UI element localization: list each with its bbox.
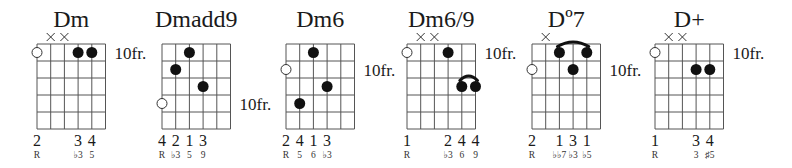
interval-label: 5 xyxy=(89,150,94,160)
finger-number: 1 xyxy=(555,132,563,149)
interval-label: ♭5 xyxy=(582,150,591,160)
finger-dot-icon xyxy=(73,47,84,58)
interval-label: 5 xyxy=(187,150,192,160)
interval-label: ♭♭7 xyxy=(553,150,567,160)
finger-number: 1 xyxy=(583,132,591,149)
finger-number: 4 xyxy=(296,132,304,149)
finger-number: 4 xyxy=(158,132,166,149)
interval-label: ♭3 xyxy=(322,150,331,160)
interval-label: ♯5 xyxy=(705,150,715,160)
finger-number: 2 xyxy=(33,132,41,149)
chord-chart: Dm10fr.234R♭35Dmadd910fr.4213R♭359Dm610f… xyxy=(0,0,792,168)
interval-label: 6 xyxy=(311,150,316,160)
finger-number: 4 xyxy=(88,132,96,149)
finger-number: 1 xyxy=(651,132,659,149)
mute-x-icon xyxy=(678,33,686,41)
root-open-circle-icon xyxy=(402,48,412,58)
finger-dot-icon xyxy=(554,47,565,58)
finger-number: 3 xyxy=(199,132,207,149)
interval-label: 3 xyxy=(694,150,699,160)
chord-diagram-2: Dm610fr.2413R56♭3 xyxy=(281,6,395,160)
mute-x-icon xyxy=(542,33,550,41)
fret-position-label: 10fr. xyxy=(364,61,396,80)
fretboard-grid xyxy=(162,44,231,129)
fret-position-label: 10fr. xyxy=(610,61,642,80)
chord-diagram-0: Dm10fr.234R♭35 xyxy=(32,6,146,160)
root-open-circle-icon xyxy=(527,65,537,75)
finger-number: 4 xyxy=(706,132,714,149)
interval-label: R xyxy=(652,150,659,160)
chord-title: Dm xyxy=(53,6,89,32)
interval-label: R xyxy=(404,150,411,160)
mute-x-icon xyxy=(665,33,673,41)
finger-dot-icon xyxy=(170,64,181,75)
finger-dot-icon xyxy=(470,81,481,92)
finger-dot-icon xyxy=(198,81,209,92)
finger-dot-icon xyxy=(322,81,333,92)
finger-number: 3 xyxy=(74,132,82,149)
finger-dot-icon xyxy=(443,47,454,58)
interval-label: R xyxy=(34,150,41,160)
finger-number: 2 xyxy=(528,132,536,149)
interval-label: 9 xyxy=(473,150,478,160)
chord-title: D+ xyxy=(674,6,705,32)
finger-number: 3 xyxy=(692,132,700,149)
interval-label: R xyxy=(529,150,536,160)
interval-label: 5 xyxy=(297,150,302,160)
finger-number: 2 xyxy=(172,132,180,149)
fret-position-label: 10fr. xyxy=(240,95,272,114)
chord-title: Dm6 xyxy=(296,6,344,32)
finger-number: 4 xyxy=(472,132,480,149)
chord-diagram-3: Dm6/910fr.1244R♭369 xyxy=(402,6,516,160)
finger-dot-icon xyxy=(308,47,319,58)
root-open-circle-icon xyxy=(157,99,167,109)
finger-number: 1 xyxy=(403,132,411,149)
interval-label: R xyxy=(283,150,290,160)
finger-dot-icon xyxy=(691,64,702,75)
root-open-circle-icon xyxy=(281,65,291,75)
mute-x-icon xyxy=(60,33,68,41)
mute-x-icon xyxy=(47,33,55,41)
chord-diagram-4: Dº710fr.2131R♭♭7♭3♭5 xyxy=(527,6,641,160)
fret-position-label: 10fr. xyxy=(733,44,765,63)
chord-title: Dº7 xyxy=(548,6,585,32)
mute-x-icon xyxy=(417,33,425,41)
finger-dot-icon xyxy=(294,98,305,109)
finger-number: 2 xyxy=(282,132,290,149)
finger-dot-icon xyxy=(86,47,97,58)
fret-position-label: 10fr. xyxy=(115,44,147,63)
finger-number: 2 xyxy=(444,132,452,149)
finger-dot-icon xyxy=(704,64,715,75)
finger-dot-icon xyxy=(184,47,195,58)
finger-dot-icon xyxy=(456,81,467,92)
finger-number: 1 xyxy=(185,132,193,149)
chord-title: Dmadd9 xyxy=(155,6,238,32)
interval-label: ♭3 xyxy=(73,150,82,160)
finger-number: 1 xyxy=(309,132,317,149)
fret-position-label: 10fr. xyxy=(485,44,517,63)
finger-dot-icon xyxy=(568,64,579,75)
interval-label: 6 xyxy=(459,150,464,160)
fretboard-grid xyxy=(655,44,724,129)
mute-x-icon xyxy=(430,33,438,41)
fretboard-grid xyxy=(286,44,355,129)
finger-dot-icon xyxy=(581,47,592,58)
finger-number: 4 xyxy=(458,132,466,149)
chord-diagram-1: Dmadd910fr.4213R♭359 xyxy=(155,6,271,160)
interval-label: ♭3 xyxy=(171,150,180,160)
root-open-circle-icon xyxy=(32,48,42,58)
interval-label: 9 xyxy=(201,150,206,160)
finger-number: 3 xyxy=(323,132,331,149)
root-open-circle-icon xyxy=(650,48,660,58)
finger-number: 3 xyxy=(569,132,577,149)
chord-title: Dm6/9 xyxy=(408,6,475,32)
interval-label: ♭3 xyxy=(443,150,452,160)
interval-label: ♭3 xyxy=(568,150,577,160)
interval-label: R xyxy=(159,150,166,160)
chord-diagram-5: D+10fr.134R3♯5 xyxy=(650,6,764,160)
